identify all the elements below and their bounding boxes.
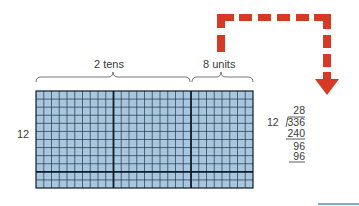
step2-product: 96 (286, 150, 305, 162)
units-brace (192, 72, 253, 82)
rows-label: 12 (17, 128, 29, 140)
quotient: 28 (286, 104, 305, 116)
divisor: 12 (267, 116, 285, 128)
tens-label: 2 tens (94, 58, 124, 70)
units-label: 8 units (203, 58, 235, 70)
tens-brace (36, 72, 190, 82)
dashed-arrow (217, 14, 339, 95)
step1-product: 240 (286, 127, 305, 139)
diagram-canvas (0, 0, 359, 206)
